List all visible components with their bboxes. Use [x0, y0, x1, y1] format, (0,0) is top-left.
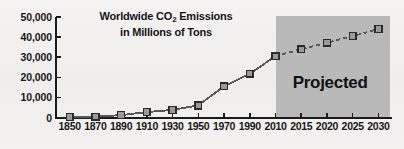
x-axis-tick-label: 1990 [239, 120, 261, 132]
data-point-marker [118, 112, 125, 119]
x-axis-tick-label: 2025 [342, 120, 364, 132]
x-axis-tick-label: 1930 [161, 120, 183, 132]
data-point-marker [169, 107, 176, 114]
co2-emissions-chart-figure: 010,00020,00030,00040,00050,000 18501870… [0, 0, 404, 149]
x-axis-tick-label: 2030 [367, 120, 389, 132]
data-point-marker [375, 26, 382, 33]
x-axis-tick-label: 1970 [213, 120, 235, 132]
data-point-marker [324, 39, 331, 46]
data-point-marker [143, 109, 150, 116]
y-axis-tick-label: 30,000 [0, 51, 52, 63]
x-axis-tick-label: 1910 [136, 120, 158, 132]
x-axis-tick-label: 1890 [110, 120, 132, 132]
x-axis-tick-label: 2015 [290, 120, 312, 132]
x-axis-tick-label: 1850 [59, 120, 81, 132]
x-axis-tick-label: 1870 [84, 120, 106, 132]
chart-title-line-1-before: Worldwide CO [100, 10, 173, 22]
data-point-marker [246, 70, 253, 77]
data-point-marker [298, 46, 305, 53]
chart-title-line-1: Worldwide CO2 Emissions [66, 10, 266, 26]
y-axis-tick-label: 10,000 [0, 91, 52, 103]
y-axis-tick-label: 0 [0, 112, 52, 124]
data-point-marker [349, 33, 356, 40]
data-point-marker [221, 83, 228, 90]
y-axis-tick-label: 20,000 [0, 71, 52, 83]
data-point-marker [272, 53, 279, 60]
data-point-marker [195, 102, 202, 109]
projected-region-label: Projected [293, 73, 368, 93]
y-axis-tick-label: 40,000 [0, 31, 52, 43]
chart-title-line-1-after: Emissions [176, 10, 232, 22]
x-axis-tick-label: 2010 [264, 120, 286, 132]
chart-title-line-2: in Millions of Tons [66, 26, 266, 39]
x-axis-tick-label: 2020 [316, 120, 338, 132]
y-axis-tick-label: 50,000 [0, 11, 52, 23]
chart-title: Worldwide CO2 Emissions in Millions of T… [66, 10, 266, 39]
x-axis-tick-label: 1950 [187, 120, 209, 132]
